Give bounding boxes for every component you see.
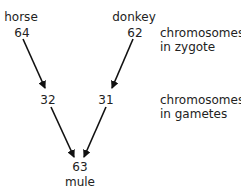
horse-gamete-count: 32 xyxy=(40,93,55,107)
gametes-row-label-line1: chromosomes xyxy=(160,93,241,107)
arrow-donkey-to-gamete xyxy=(112,39,133,88)
gametes-row-label-line2: in gametes xyxy=(160,107,227,121)
zygote-row-label-line1: chromosomes xyxy=(160,26,241,40)
zygote-row-label-line2: in zygote xyxy=(160,40,215,54)
horse-label: horse xyxy=(4,10,38,24)
arrow-horse-to-gamete xyxy=(23,39,45,88)
mule-label: mule xyxy=(65,175,95,189)
donkey-label: donkey xyxy=(112,10,156,24)
donkey-zygote-count: 62 xyxy=(127,26,142,40)
arrow-donkey-gamete-to-mule xyxy=(84,107,106,157)
donkey-gamete-count: 31 xyxy=(98,93,113,107)
arrow-horse-gamete-to-mule xyxy=(51,107,74,157)
mule-zygote-count: 63 xyxy=(72,160,87,174)
horse-zygote-count: 64 xyxy=(14,26,29,40)
